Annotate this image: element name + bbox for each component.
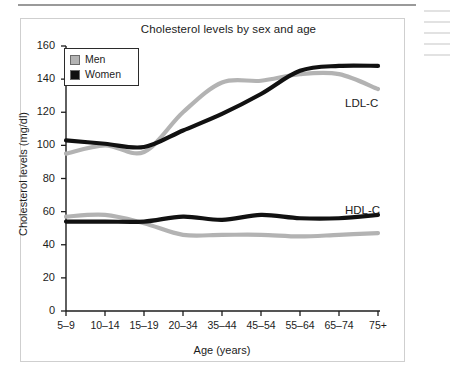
axes xyxy=(61,46,380,316)
x-tick-label: 75+ xyxy=(354,319,402,331)
legend-item-men: Men xyxy=(70,53,132,66)
chart-plot-area: Cholesterol levels (mg/dl) Age (years) 0… xyxy=(0,0,457,374)
y-tick-label: 0 xyxy=(21,304,55,316)
data-series-layer xyxy=(66,66,378,237)
y-tick-label: 40 xyxy=(21,238,55,250)
y-tick-label: 160 xyxy=(21,39,55,51)
chart-legend: Men Women xyxy=(64,48,139,86)
y-tick-label: 140 xyxy=(21,72,55,84)
y-tick-label: 120 xyxy=(21,105,55,117)
y-tick-label: 60 xyxy=(21,205,55,217)
legend-swatch-men xyxy=(70,55,80,65)
annotation-hdl-c: HDL-C xyxy=(345,204,380,216)
legend-swatch-women xyxy=(70,70,80,80)
legend-label-women: Women xyxy=(85,68,121,81)
y-tick-label: 80 xyxy=(21,172,55,184)
y-tick-label: 100 xyxy=(21,138,55,150)
y-tick-label: 20 xyxy=(21,271,55,283)
legend-label-men: Men xyxy=(85,53,105,66)
x-axis-title: Age (years) xyxy=(66,344,378,356)
legend-item-women: Women xyxy=(70,68,132,81)
annotation-ldl-c: LDL-C xyxy=(345,97,378,109)
